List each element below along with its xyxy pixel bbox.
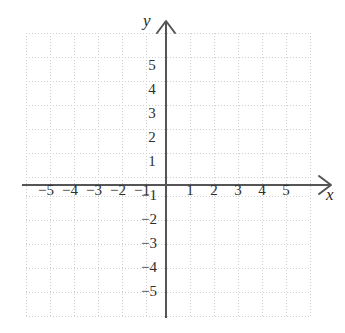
coordinate-plane: −5 −4 −3 −2 −1 1 2 3 4 5 5 4 3 2 1 −1 −2… [0,0,345,333]
axis-layer [0,0,345,333]
